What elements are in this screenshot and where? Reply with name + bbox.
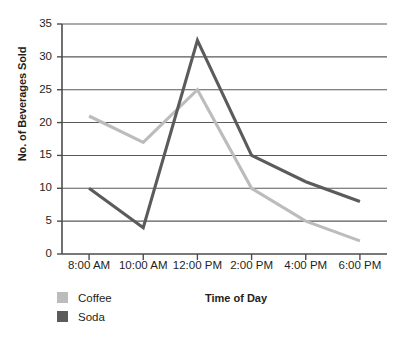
series-lines bbox=[89, 40, 360, 240]
plot-area bbox=[62, 24, 387, 254]
y-axis-tick-labels: 35302520151050 bbox=[26, 0, 52, 343]
y-tick-label: 25 bbox=[26, 84, 52, 96]
legend-item-coffee[interactable]: Coffee bbox=[57, 288, 112, 307]
x-tick-label: 6:00 PM bbox=[324, 259, 396, 272]
legend-label: Soda bbox=[78, 311, 105, 323]
y-tick-label: 5 bbox=[26, 215, 52, 227]
legend-swatch-icon bbox=[57, 292, 68, 303]
legend-label: Coffee bbox=[78, 292, 112, 304]
chart-legend: CoffeeSoda bbox=[57, 288, 112, 326]
beverages-sold-line-chart: No. of Beverages Sold 35302520151050 8:0… bbox=[0, 0, 401, 343]
gridlines bbox=[62, 24, 387, 221]
y-tick-label: 35 bbox=[26, 18, 52, 30]
legend-swatch-icon bbox=[57, 311, 68, 322]
y-tick-label: 20 bbox=[26, 117, 52, 129]
y-tick-label: 10 bbox=[26, 182, 52, 194]
y-tick-label: 15 bbox=[26, 149, 52, 161]
y-tick-label: 0 bbox=[26, 248, 52, 260]
x-axis-title: Time of Day bbox=[176, 292, 296, 304]
x-axis-tick-labels: 8:00 AM10:00 AM12:00 PM2:00 PM4:00 PM6:0… bbox=[0, 259, 401, 277]
y-tick-label: 30 bbox=[26, 51, 52, 63]
plot-svg bbox=[62, 24, 387, 254]
legend-item-soda[interactable]: Soda bbox=[57, 307, 112, 326]
